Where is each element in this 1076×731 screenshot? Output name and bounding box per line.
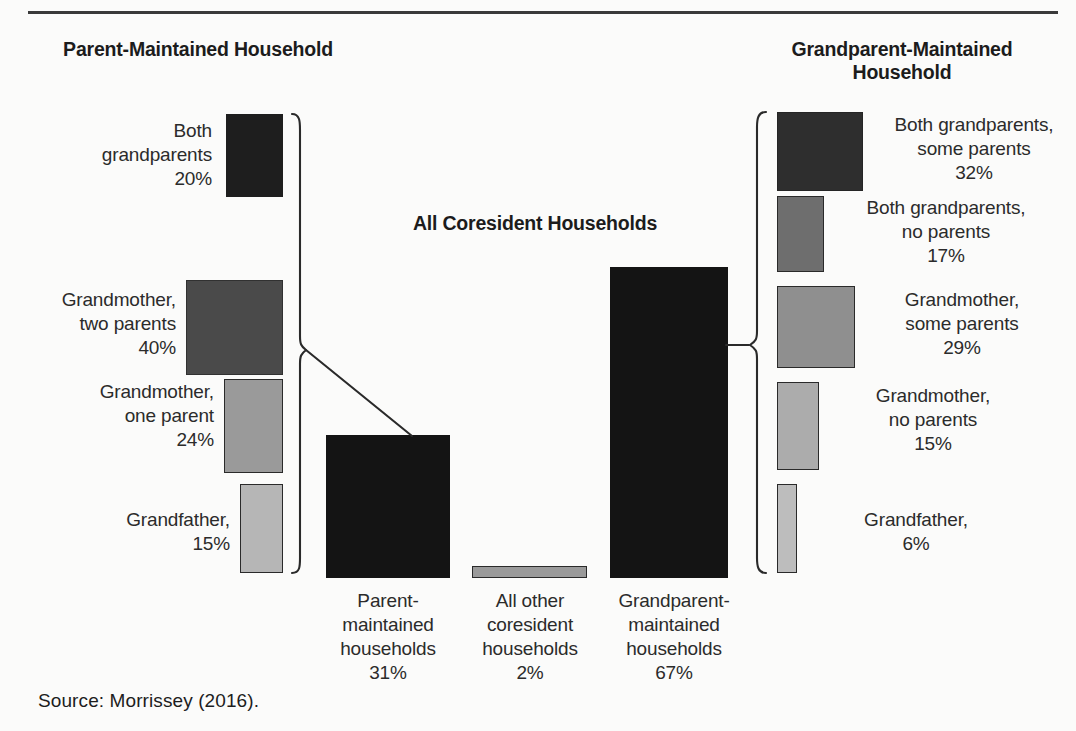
figure-canvas: Parent-Maintained Household Grandparent-… xyxy=(0,0,1076,731)
label-left-grandfather: Grandfather, 15% xyxy=(20,508,230,556)
bar-left-grandmother-one-parent xyxy=(224,379,283,473)
heading-parent-maintained-household: Parent-Maintained Household xyxy=(48,38,348,61)
bar-center-all-other-coresident xyxy=(472,566,587,578)
label-right-grandfather: Grandfather, 6% xyxy=(814,508,1018,556)
bar-center-grandparent-maintained xyxy=(610,267,728,578)
bar-left-grandfather xyxy=(240,484,283,573)
bar-center-parent-maintained xyxy=(326,435,450,578)
bar-left-both-grandparents xyxy=(226,114,283,197)
label-right-grandmother-some-parents: Grandmother, some parents 29% xyxy=(864,288,1060,360)
left-connector-line xyxy=(306,350,412,436)
source-note: Source: Morrissey (2016). xyxy=(38,690,259,712)
bar-right-grandmother-some-parents xyxy=(777,286,855,368)
left-brace xyxy=(292,114,306,573)
label-right-grandmother-no-parents: Grandmother, no parents 15% xyxy=(828,384,1038,456)
bar-right-both-grandparents-no-parents xyxy=(777,196,824,272)
heading-grandparent-maintained-household: Grandparent-Maintained Household xyxy=(742,38,1062,84)
label-center-grandparent-maintained: Grandparent- maintained households 67% xyxy=(604,589,744,685)
label-right-both-grandparents-some-parents: Both grandparents, some parents 32% xyxy=(872,113,1076,185)
bar-right-grandmother-no-parents xyxy=(777,382,819,470)
bar-right-grandfather xyxy=(777,484,797,573)
label-center-all-other-coresident: All other coresident households 2% xyxy=(464,589,596,685)
label-left-both-grandparents: Both grandparents 20% xyxy=(20,119,212,191)
top-divider-rule xyxy=(28,11,1058,14)
label-left-grandmother-two-parents: Grandmother, two parents 40% xyxy=(0,288,176,360)
right-brace xyxy=(750,112,766,573)
label-center-parent-maintained: Parent- maintained households 31% xyxy=(320,589,456,685)
bar-right-both-grandparents-some-parents xyxy=(777,112,863,191)
label-left-grandmother-one-parent: Grandmother, one parent 24% xyxy=(20,380,214,452)
label-right-both-grandparents-no-parents: Both grandparents, no parents 17% xyxy=(832,196,1060,268)
heading-all-coresident-households: All Coresident Households xyxy=(355,212,715,235)
bar-left-grandmother-two-parents xyxy=(186,280,283,375)
